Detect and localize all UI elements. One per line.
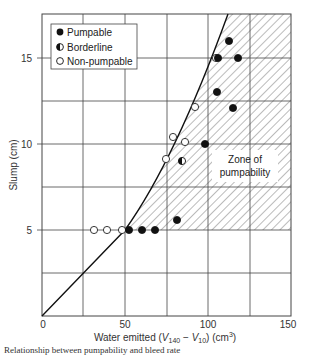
data-point-open (191, 103, 198, 110)
data-point-filled (234, 54, 241, 61)
pumpability-chart: Zone of pumpability Pumpable Bord (0, 0, 311, 356)
data-point-filled (225, 37, 232, 44)
data-point-filled (173, 216, 180, 223)
y-tick-5: 5 (26, 225, 32, 236)
data-point-open (181, 138, 188, 145)
data-point-filled (151, 226, 158, 233)
legend-nonpumpable-label: Non-pumpable (67, 56, 133, 67)
legend: Pumpable Borderline Non-pumpable (51, 24, 137, 69)
data-point-filled (229, 104, 236, 111)
x-tick-150: 150 (280, 319, 297, 330)
data-point-open (118, 226, 125, 233)
zone-label-line1: Zone of (228, 154, 262, 165)
data-point-open (103, 226, 110, 233)
legend-pumpable-label: Pumpable (67, 27, 112, 38)
data-point-open (162, 155, 169, 162)
data-point-open (90, 226, 97, 233)
data-point-filled (125, 226, 132, 233)
data-point-open (169, 133, 176, 140)
x-tick-50: 50 (119, 319, 131, 330)
legend-nonpumpable-icon (57, 58, 64, 65)
y-tick-marks (37, 58, 42, 230)
y-tick-15: 15 (21, 53, 33, 64)
x-axis-label: Water emitted (V140 − V10) (cm3) (94, 331, 236, 344)
data-point-filled (201, 140, 208, 147)
legend-pumpable-icon (57, 29, 64, 36)
x-tick-0: 0 (40, 319, 46, 330)
zone-label-line2: pumpability (220, 167, 271, 178)
x-tick-100: 100 (200, 319, 217, 330)
legend-borderline-label: Borderline (67, 42, 113, 53)
data-point-filled (213, 88, 220, 95)
data-point-filled (214, 54, 221, 61)
y-axis-label: Slump (cm) (8, 139, 19, 190)
y-tick-10: 10 (21, 139, 33, 150)
data-point-filled (138, 226, 145, 233)
figure-caption: Relationship between pumpability and ble… (4, 345, 180, 355)
series-borderline (178, 157, 185, 164)
